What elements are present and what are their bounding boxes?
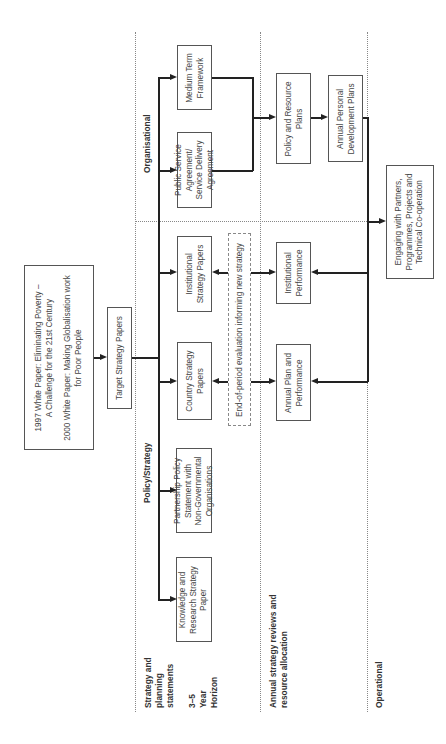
section-label-organisational: Organisational xyxy=(142,114,153,173)
arrow-right-icon xyxy=(170,74,177,80)
node-text-line: Strategy Papers xyxy=(195,245,206,304)
node-institutional-strategy-text: Institutional Strategy Papers xyxy=(184,245,205,304)
node-text-line: Institutional xyxy=(184,245,195,304)
node-text-line: Engaging with Partners, xyxy=(394,174,405,271)
arrow-left-icon xyxy=(212,378,219,384)
divider-policy-organisational xyxy=(135,221,367,222)
node-text-line: Annual Personal xyxy=(335,83,346,154)
arrow-right-icon xyxy=(321,114,328,120)
node-text-line: Non-Governmental xyxy=(194,456,205,525)
node-text-line: Policy and Resource xyxy=(283,81,294,156)
row-label-strategy-line: Strategy and xyxy=(143,657,154,708)
row-label-strategy: Strategy and planning statements xyxy=(143,657,176,708)
node-psa: Public Service Agreement/ Service Delive… xyxy=(177,132,212,208)
connector-main-trunk xyxy=(158,77,160,600)
row-label-annual-line: Annual strategy reviews and xyxy=(268,594,279,708)
node-white-papers-text: 1997 White Paper: Eliminating Poverty – … xyxy=(34,275,84,441)
node-institutional-performance: Institutional Performance xyxy=(276,242,311,304)
connector-spine-ip xyxy=(318,272,368,274)
node-annual-plan-text: Annual Plan and Performance xyxy=(283,352,304,412)
divider-annual-operational-left xyxy=(260,32,261,712)
connector-eval-isp xyxy=(219,272,228,274)
arrow-right-icon xyxy=(170,269,177,275)
connector-target-trunk xyxy=(132,357,159,359)
node-partnership-text: Partnership Policy Statement with Non-Go… xyxy=(173,456,215,525)
node-mtf-text: Medium Term Framework xyxy=(184,53,205,102)
node-text-line: Programmes, Projects and xyxy=(405,174,416,271)
node-white-papers: 1997 White Paper: Eliminating Poverty – … xyxy=(24,265,94,450)
connector-trunk-knowledge xyxy=(158,599,170,601)
connector-mtf-join xyxy=(212,77,253,79)
node-annual-plan: Annual Plan and Performance xyxy=(276,344,311,421)
node-text-line: Papers xyxy=(195,350,206,411)
arrow-left-icon xyxy=(311,378,318,384)
node-text-line: Research Strategy xyxy=(189,566,200,634)
connector-eval-ip xyxy=(251,272,269,274)
node-text-line: Development Plans xyxy=(346,83,357,154)
row-label-operational: Operational xyxy=(374,661,385,708)
node-knowledge-research: Knowledge and Research Strategy Paper xyxy=(176,557,212,642)
node-apdp-text: Annual Personal Development Plans xyxy=(335,83,356,154)
node-text-line: Institutional xyxy=(283,250,294,297)
connector-spine-app xyxy=(318,381,368,383)
node-engaging-text: Engaging with Partners, Programmes, Proj… xyxy=(394,174,426,271)
node-text-line: Knowledge and xyxy=(178,566,189,634)
arrow-right-icon xyxy=(170,596,177,602)
node-text-line: Performance xyxy=(294,250,305,297)
node-psa-text: Public Service Agreement/ Service Delive… xyxy=(174,140,216,199)
connector-join-vertical xyxy=(252,77,254,171)
arrow-right-icon xyxy=(269,269,276,275)
connector-trunk-partnership xyxy=(158,490,170,492)
connector-trunk-csp xyxy=(158,381,170,383)
node-partnership-policy: Partnership Policy Statement with Non-Go… xyxy=(176,448,212,533)
divider-strategy-annual xyxy=(135,32,136,712)
row-label-annual: Annual strategy reviews and resource all… xyxy=(268,594,290,708)
node-medium-term-framework: Medium Term Framework xyxy=(177,45,212,110)
node-text-line: Plans xyxy=(294,81,305,156)
row-label-strategy-line: planning xyxy=(154,657,165,708)
connector-trunk-mtf xyxy=(158,77,170,79)
node-text-line: Annual Plan and xyxy=(283,352,294,412)
node-knowledge-text: Knowledge and Research Strategy Paper xyxy=(178,566,210,634)
connector-right-spine xyxy=(367,117,369,382)
node-annual-personal-plans: Annual Personal Development Plans xyxy=(328,75,363,162)
arrow-right-icon xyxy=(100,354,107,360)
node-institutional-strategy: Institutional Strategy Papers xyxy=(177,236,212,312)
arrow-right-icon xyxy=(170,378,177,384)
node-text-line: Agreement/ xyxy=(184,140,195,199)
node-text-line: Performance xyxy=(294,352,305,412)
node-engaging: Engaging with Partners, Programmes, Proj… xyxy=(386,165,434,279)
connector-spine-engaging xyxy=(367,221,379,223)
node-prp-text: Policy and Resource Plans xyxy=(283,81,304,156)
connector-psa-join xyxy=(212,170,253,172)
connector-trunk-isp xyxy=(158,272,170,274)
node-text-line: Medium Term xyxy=(184,53,195,102)
arrow-right-icon xyxy=(379,218,386,224)
node-text-line: Technical Co-operation xyxy=(415,174,426,271)
node-text-line: 1997 White Paper: Eliminating Poverty – xyxy=(34,275,45,441)
connector-join-prp xyxy=(252,117,269,119)
node-country-strategy: Country Strategy Papers xyxy=(177,342,212,420)
section-label-text: Policy/Strategy xyxy=(142,442,153,503)
node-country-text: Country Strategy Papers xyxy=(184,350,205,411)
node-institutional-performance-text: Institutional Performance xyxy=(283,250,304,297)
connector-prp-apdp xyxy=(311,117,321,119)
row-label-horizon-line: Horizon xyxy=(209,677,220,708)
row-label-horizon-line: Year xyxy=(198,677,209,708)
connector-trunk-psa xyxy=(158,170,170,172)
row-label-operational-line: Operational xyxy=(374,661,385,708)
row-label-annual-line: resource allocation xyxy=(279,594,290,708)
node-target-strategy-papers: Target Strategy Papers xyxy=(107,307,132,409)
section-label-text: Organisational xyxy=(142,114,153,173)
node-text-line: Service Delivery xyxy=(195,140,206,199)
node-target-strategy-text: Target Strategy Papers xyxy=(114,316,125,400)
arrow-left-icon xyxy=(311,269,318,275)
node-text-line: for Poor People xyxy=(74,275,85,441)
node-text-line: Statement with xyxy=(184,456,195,525)
node-text-line: Target Strategy Papers xyxy=(114,316,125,400)
spacer xyxy=(55,275,63,441)
node-text-line: End-of-period evaluation informing new s… xyxy=(234,243,245,417)
connector-eval-app xyxy=(251,381,269,383)
arrow-right-icon xyxy=(269,378,276,384)
arrow-right-icon xyxy=(269,114,276,120)
